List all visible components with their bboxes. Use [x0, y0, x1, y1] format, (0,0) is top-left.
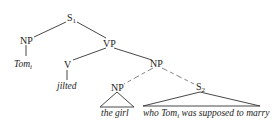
node-v: V [64, 59, 72, 70]
edge-vp-npobj [114, 48, 152, 60]
node-np-object: NP [150, 58, 163, 69]
leaf-tom: Tomi [14, 59, 32, 71]
edge-npobj-npgirl [124, 68, 153, 84]
node-s1: S1 [67, 12, 77, 25]
edge-vp-v [73, 48, 106, 60]
triangle-the-girl [100, 92, 134, 107]
node-s2: S2 [196, 81, 206, 94]
triangle-relative-clause [143, 92, 260, 106]
edge-npobj-s2 [162, 68, 194, 84]
node-vp: VP [103, 38, 116, 49]
node-np-subject: NP [20, 35, 33, 46]
leaf-relative-clause: who Tomi was supposed to marry [143, 108, 270, 120]
leaf-the-girl: the girl [101, 108, 129, 118]
edge-s1-vp [77, 22, 106, 38]
leaf-jilted: jilted [55, 81, 77, 91]
edge-s1-np [34, 22, 66, 37]
syntax-tree: S1 NP Tomi VP V jilted NP NP the girl S2… [0, 0, 274, 122]
node-np-girl: NP [111, 82, 124, 93]
